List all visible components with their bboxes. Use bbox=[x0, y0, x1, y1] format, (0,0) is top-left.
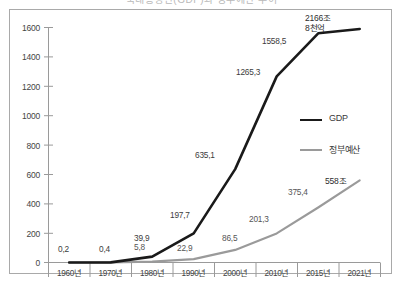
x-tick-label-1960: 1960년 bbox=[49, 266, 91, 278]
y-tick-label: 400 bbox=[6, 199, 40, 209]
data-label-budget-2010: 201,3 bbox=[249, 215, 269, 225]
x-tick-label-1980: 1980년 bbox=[132, 266, 174, 278]
data-label-gdp-1970: 0,4 bbox=[99, 245, 110, 255]
data-label-budget-2021: 558조 bbox=[325, 177, 346, 187]
legend-label-gdp: GDP bbox=[329, 113, 348, 123]
x-tick-label-2010: 2010년 bbox=[256, 266, 298, 278]
x-tick-label-2021: 2021년 bbox=[339, 266, 381, 278]
data-label-gdp-1990: 197,7 bbox=[170, 211, 190, 221]
x-tick-label-1990: 1990년 bbox=[173, 266, 215, 278]
y-tick-label: 800 bbox=[6, 141, 40, 151]
data-label-gdp-2015: 1558,5 bbox=[262, 37, 286, 47]
y-tick-label: 1200 bbox=[6, 82, 40, 92]
series-line-gdp bbox=[69, 29, 360, 263]
data-label-budget-2015: 375,4 bbox=[288, 188, 308, 198]
x-tick-label-2015: 2015년 bbox=[298, 266, 340, 278]
y-tick-label: 1400 bbox=[6, 52, 40, 62]
x-tick-label-2000: 2000년 bbox=[215, 266, 257, 278]
data-label-gdp-1960: 0,2 bbox=[58, 245, 69, 255]
data-label-budget-1990: 22,9 bbox=[177, 244, 192, 254]
y-tick-label: 1000 bbox=[6, 111, 40, 121]
y-tick-label: 200 bbox=[6, 229, 40, 239]
legend-swatch-gdp-icon bbox=[300, 119, 322, 121]
y-tick-label: 1600 bbox=[6, 23, 40, 33]
data-label-gdp-2000: 635,1 bbox=[195, 151, 215, 161]
legend-swatch-budget-icon bbox=[300, 149, 322, 151]
data-label-budget-1980: 5,8 bbox=[134, 243, 145, 253]
data-label-gdp-2010: 1265,3 bbox=[236, 68, 260, 78]
data-label-budget-2000: 86,5 bbox=[222, 234, 237, 244]
x-tick-label-1970: 1970년 bbox=[90, 266, 132, 278]
data-label-gdp-2021-line2: 8천억 bbox=[305, 24, 325, 34]
y-tick-label: 600 bbox=[6, 170, 40, 180]
series-line-budget bbox=[69, 180, 360, 262]
y-tick-label: 0 bbox=[6, 258, 40, 268]
legend-label-budget: 정부예산 bbox=[329, 143, 360, 156]
